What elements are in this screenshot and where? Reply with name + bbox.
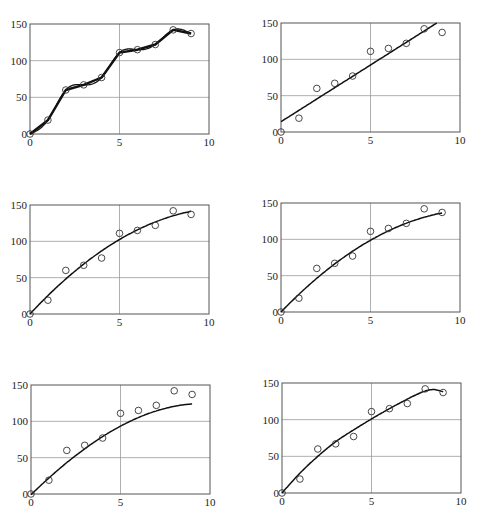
data-markers [278, 206, 446, 316]
data-markers [27, 208, 195, 318]
x-tick-label: 0 [27, 136, 33, 148]
x-tick-label: 5 [117, 136, 123, 148]
chart-panel-5: 0501001500510 [12, 379, 217, 508]
fit-curve [31, 404, 192, 495]
y-tick-label: 150 [262, 197, 279, 209]
chart-panel-6: 0501001500510 [263, 377, 468, 507]
gridlines [31, 385, 210, 494]
y-tick-label: 100 [262, 233, 279, 245]
x-tick-label: 10 [456, 495, 468, 507]
chart-panel-1: 0501001500510 [11, 18, 216, 148]
chart-panel-2: 0501001500510 [262, 17, 467, 146]
y-tick-label: 50 [17, 452, 29, 464]
y-tick-label: 50 [16, 91, 28, 103]
chart-panel-3: 0501001500510 [11, 199, 216, 328]
data-point-marker [349, 253, 356, 260]
data-point-marker [331, 80, 338, 87]
gridlines [30, 205, 209, 314]
y-tick-label: 50 [16, 272, 28, 284]
data-markers [278, 26, 446, 136]
y-tick-label: 150 [12, 379, 29, 391]
data-point-marker [98, 255, 105, 262]
x-tick-label: 0 [279, 495, 285, 507]
x-tick-label: 10 [204, 136, 216, 148]
x-tick-label: 5 [368, 314, 374, 326]
data-point-marker [188, 211, 195, 218]
x-tick-label: 10 [205, 496, 217, 508]
data-point-marker [440, 389, 447, 396]
y-tick-label: 150 [262, 17, 279, 29]
y-tick-label: 100 [11, 55, 28, 67]
y-tick-label: 100 [11, 235, 28, 247]
y-tick-label: 100 [262, 53, 279, 65]
data-point-marker [63, 267, 70, 274]
x-tick-label: 0 [27, 316, 33, 328]
x-tick-label: 5 [369, 495, 375, 507]
data-point-marker [439, 29, 446, 36]
y-tick-label: 150 [263, 377, 280, 389]
x-tick-label: 10 [455, 314, 467, 326]
data-point-marker [385, 45, 392, 52]
data-point-marker [296, 295, 303, 302]
data-point-marker [314, 265, 321, 272]
data-point-marker [45, 297, 52, 304]
data-point-marker [64, 447, 71, 454]
y-tick-label: 50 [267, 270, 279, 282]
data-point-marker [171, 388, 178, 395]
x-tick-label: 0 [278, 134, 284, 146]
gridlines [282, 383, 461, 493]
fit-curve [281, 213, 442, 312]
figure-grid: 0501001500510050100150051005010015005100… [0, 0, 485, 521]
y-tick-label: 100 [12, 415, 29, 427]
x-tick-label: 10 [455, 134, 467, 146]
data-markers [27, 27, 195, 138]
data-point-marker [421, 206, 428, 213]
fit-curve [30, 211, 191, 314]
y-tick-label: 50 [267, 90, 279, 102]
x-tick-label: 10 [204, 316, 216, 328]
fit-curve [281, 23, 437, 122]
fit-curve [30, 30, 191, 134]
gridlines [281, 203, 460, 312]
data-point-marker [315, 446, 322, 453]
data-point-marker [439, 209, 446, 216]
x-tick-label: 0 [278, 314, 284, 326]
fit-curve [30, 29, 191, 134]
data-point-marker [153, 402, 160, 409]
gridlines [281, 23, 460, 132]
data-point-marker [189, 391, 196, 398]
data-point-marker [314, 85, 321, 92]
y-tick-label: 150 [11, 18, 28, 30]
data-point-marker [296, 115, 303, 122]
x-tick-label: 5 [117, 316, 123, 328]
data-markers [279, 386, 447, 497]
x-tick-label: 0 [28, 496, 34, 508]
chart-panel-4: 0501001500510 [262, 197, 467, 326]
x-tick-label: 5 [368, 134, 374, 146]
figure-svg: 0501001500510050100150051005010015005100… [0, 0, 485, 521]
data-point-marker [152, 222, 159, 229]
data-point-marker [350, 433, 357, 440]
data-point-marker [297, 476, 304, 483]
data-point-marker [404, 400, 411, 407]
y-tick-label: 50 [268, 450, 280, 462]
y-tick-label: 150 [11, 199, 28, 211]
data-point-marker [81, 442, 88, 449]
data-markers [28, 388, 196, 498]
data-point-marker [170, 208, 177, 215]
fit-curve [282, 390, 443, 493]
x-tick-label: 5 [118, 496, 124, 508]
y-tick-label: 100 [263, 414, 280, 426]
gridlines [30, 24, 209, 134]
data-point-marker [135, 407, 142, 414]
